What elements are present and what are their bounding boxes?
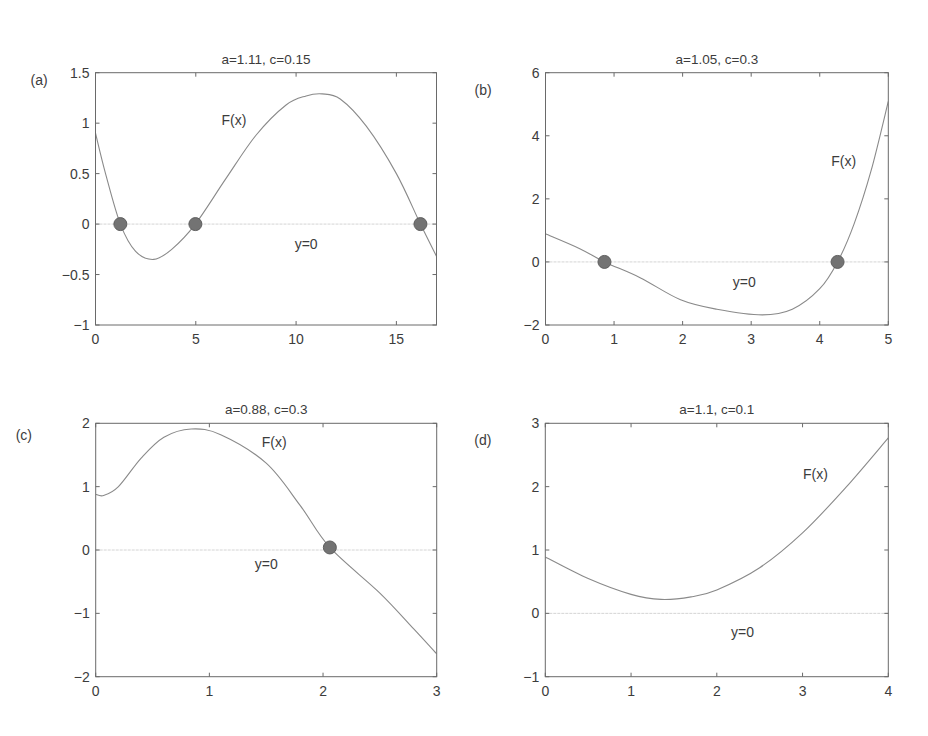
y-tick-label: 0 (532, 605, 540, 621)
function-curve (546, 101, 889, 315)
zero-line-label: y=0 (731, 624, 754, 640)
root-marker (598, 255, 611, 268)
x-tick-label: 1 (627, 683, 635, 699)
x-tick-label: 0 (92, 331, 100, 347)
x-tick-label: 2 (319, 683, 327, 699)
function-curve (96, 94, 437, 260)
subplot-b: a=1.05, c=0.3(b)012345−20246F(x)y=0 (475, 52, 893, 347)
subplot-title: a=0.88, c=0.3 (225, 402, 308, 417)
figure: a=1.11, c=0.15(a)051015−1−0.500.511.5F(x… (0, 0, 928, 736)
y-tick-label: 2 (82, 415, 90, 431)
y-tick-label: 1 (532, 542, 540, 558)
x-tick-label: 3 (799, 683, 807, 699)
y-tick-label: 1 (82, 115, 90, 131)
y-tick-label: −2 (74, 669, 90, 685)
x-tick-label: 1 (610, 331, 618, 347)
y-tick-label: −1 (74, 317, 90, 333)
axes-frame (96, 73, 437, 325)
root-marker (831, 255, 844, 268)
x-tick-label: 4 (816, 331, 824, 347)
x-tick-label: 3 (747, 331, 755, 347)
panel-label: (c) (16, 427, 32, 443)
x-tick-label: 0 (92, 683, 100, 699)
x-tick-label: 15 (389, 331, 405, 347)
axes-frame (545, 423, 888, 676)
y-tick-label: 0 (532, 254, 540, 270)
y-tick-label: 1 (82, 479, 90, 495)
x-tick-label: 0 (542, 331, 550, 347)
curve-label: F(x) (803, 466, 828, 482)
subplot-d: a=1.1, c=0.1(d)01234−10123F(x)y=0 (474, 402, 892, 698)
panel-label: (b) (475, 82, 492, 98)
y-tick-label: −1 (523, 669, 539, 685)
x-tick-label: 10 (288, 331, 304, 347)
y-tick-label: 4 (532, 128, 540, 144)
x-tick-label: 3 (433, 683, 441, 699)
y-tick-label: −0.5 (62, 267, 90, 283)
subplot-c: a=0.88, c=0.3(c)0123−2−1012F(x)y=0 (16, 402, 441, 698)
root-marker (189, 218, 202, 231)
x-tick-label: 0 (541, 683, 549, 699)
curve-label: F(x) (831, 153, 856, 169)
x-tick-label: 5 (884, 331, 892, 347)
y-tick-label: 3 (532, 415, 540, 431)
y-tick-label: 6 (532, 65, 540, 81)
y-tick-label: 0.5 (70, 166, 90, 182)
x-tick-label: 4 (884, 683, 892, 699)
subplot-a: a=1.11, c=0.15(a)051015−1−0.500.511.5F(x… (31, 52, 437, 347)
y-tick-label: −2 (524, 317, 540, 333)
x-tick-label: 2 (713, 683, 721, 699)
y-tick-label: 1.5 (70, 65, 90, 81)
y-tick-label: 0 (82, 542, 90, 558)
y-tick-label: −1 (74, 605, 90, 621)
root-marker (323, 541, 336, 554)
function-curve (96, 429, 437, 654)
zero-line-label: y=0 (733, 274, 756, 290)
x-tick-label: 5 (192, 331, 200, 347)
zero-line-label: y=0 (295, 236, 318, 252)
curve-label: F(x) (262, 434, 287, 450)
function-curve (545, 438, 888, 600)
subplot-title: a=1.11, c=0.15 (221, 52, 310, 67)
x-tick-label: 1 (205, 683, 213, 699)
y-tick-label: 2 (532, 479, 540, 495)
zero-line-label: y=0 (255, 556, 278, 572)
y-tick-label: 2 (532, 191, 540, 207)
axes-frame (546, 73, 889, 325)
subplot-title: a=1.1, c=0.1 (679, 402, 754, 417)
x-tick-label: 2 (679, 331, 687, 347)
y-tick-label: 0 (82, 216, 90, 232)
panel-label: (a) (31, 72, 48, 88)
root-marker (414, 218, 427, 231)
curve-label: F(x) (221, 112, 246, 128)
root-marker (114, 218, 127, 231)
subplot-title: a=1.05, c=0.3 (676, 52, 759, 67)
panel-label: (d) (474, 432, 491, 448)
